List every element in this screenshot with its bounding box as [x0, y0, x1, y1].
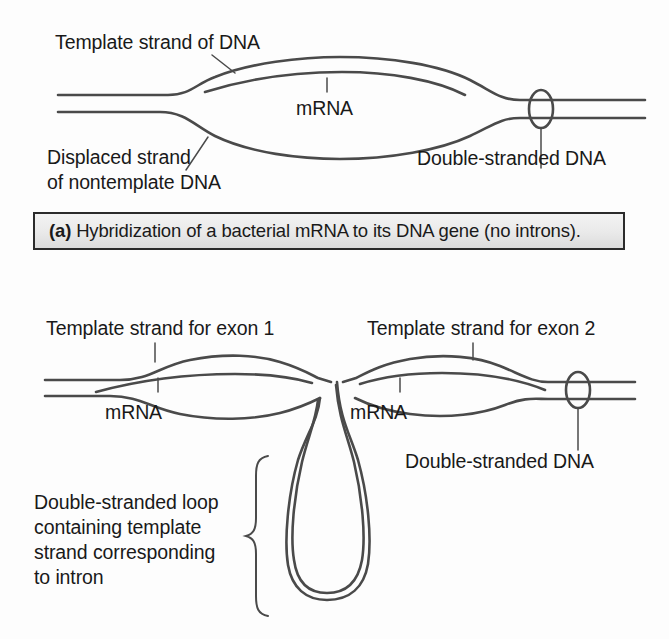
label-double-stranded-dna-panel-a: Double-stranded DNA	[417, 146, 606, 171]
label-template-strand-exon-2: Template strand for exon 2	[367, 316, 595, 341]
intron-loop-brace	[246, 456, 268, 616]
double-stranded-dna-marker-b	[566, 372, 590, 408]
panel-b: Template strand for exon 1 Template stra…	[0, 300, 669, 639]
displaced-strand-lower-b-left	[45, 396, 320, 419]
loop-desc-line-2: containing template	[34, 516, 201, 538]
label-intron-loop-description: Double-stranded loop containing template…	[34, 490, 218, 590]
mrna-line-left-b	[96, 374, 312, 392]
label-template-strand-exon-1: Template strand for exon 1	[46, 316, 274, 341]
double-stranded-dna-marker	[529, 90, 553, 128]
caption-a-marker: (a)	[49, 220, 71, 241]
figure-root: Template strand of DNA mRNA Displaced st…	[0, 0, 669, 639]
caption-box-a: (a) Hybridization of a bacterial mRNA to…	[33, 212, 625, 250]
label-mrna-right-panel-b: mRNA	[350, 400, 407, 425]
mrna-line-right-b	[360, 373, 545, 390]
loop-desc-line-3: strand corresponding	[34, 541, 215, 563]
leader-template-strand	[212, 55, 235, 73]
caption-a-text: (a) Hybridization of a bacterial mRNA to…	[49, 220, 581, 242]
template-strand-curve	[58, 57, 645, 100]
label-mrna-left-panel-b: mRNA	[105, 400, 162, 425]
displaced-strand-line-1: Displaced strand	[47, 146, 191, 168]
loop-desc-line-4: to intron	[34, 566, 104, 588]
loop-desc-line-1: Double-stranded loop	[34, 491, 218, 513]
displaced-strand-line-2: of nontemplate DNA	[47, 171, 221, 193]
label-double-stranded-dna-panel-b: Double-stranded DNA	[405, 449, 594, 474]
label-displaced-strand: Displaced strand of nontemplate DNA	[47, 145, 221, 195]
label-mrna-panel-a: mRNA	[296, 96, 353, 121]
caption-a-body: Hybridization of a bacterial mRNA to its…	[71, 220, 581, 241]
panel-a: Template strand of DNA mRNA Displaced st…	[0, 0, 669, 300]
mrna-strand-line	[205, 72, 465, 95]
label-template-strand-of-dna: Template strand of DNA	[55, 30, 260, 55]
